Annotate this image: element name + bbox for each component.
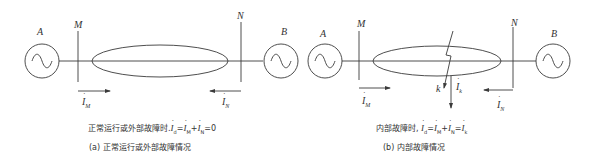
generator-b-icon	[264, 44, 298, 78]
label-generator-b: B	[281, 27, 287, 37]
label-current-m: IM	[82, 97, 90, 109]
diagram-b	[308, 27, 570, 108]
caption-b: (b) 内部故障情况	[383, 144, 445, 152]
generator-b-icon	[536, 44, 570, 78]
label-current-k: Ik	[456, 82, 462, 94]
label-current-n: IN	[497, 100, 504, 112]
label-fault-point: k	[436, 84, 440, 94]
label-generator-b: B	[551, 29, 557, 39]
equation-internal-fault: 内部故障时, Id=IM+IN=Ik	[376, 124, 467, 135]
caption-a: (a) 正常运行或外部故障情况	[89, 144, 191, 152]
label-generator-a: A	[37, 27, 43, 37]
label-current-n: IN	[222, 97, 229, 109]
label-current-m: IM	[362, 96, 370, 108]
label-generator-a: A	[320, 29, 326, 39]
diagram-a	[25, 22, 298, 91]
generator-a-icon	[308, 44, 342, 78]
equation-normal: 正常运行或外部故障时.Id=IM+IN=0	[88, 124, 216, 135]
label-bus-n: N	[511, 18, 518, 28]
generator-a-icon	[25, 44, 59, 78]
label-bus-n: N	[237, 11, 244, 21]
label-bus-m: M	[357, 19, 365, 29]
fault-lightning-icon	[444, 31, 453, 88]
label-bus-m: M	[74, 20, 82, 30]
